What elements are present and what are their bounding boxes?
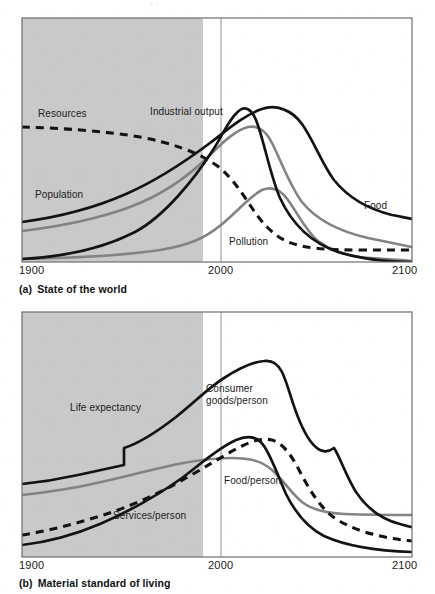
panel-state-of-the-world: Industrial output Resources Population F… — [0, 0, 435, 300]
curve-label-resources: Resources — [38, 108, 87, 120]
panel-b-plot — [0, 300, 435, 594]
x-tick-2000-b: 2000 — [208, 559, 233, 571]
caption-id-b: (b) — [19, 577, 33, 589]
curve-label-services-per-person: Services/person — [113, 510, 186, 522]
panel-material-standard-of-living: Life expectancy Consumer goods/person Fo… — [0, 300, 435, 594]
caption-id-a: (a) — [19, 283, 32, 295]
caption-panel-a: (a)State of the world — [19, 283, 127, 295]
curve-label-industrial-output: Industrial output — [150, 106, 223, 118]
x-tick-2100-a: 2100 — [392, 264, 417, 276]
caption-text-a: State of the world — [37, 283, 127, 295]
curve-label-food-per-person: Food/person — [224, 475, 281, 487]
x-tick-1900-b: 1900 — [19, 559, 44, 571]
curve-label-population: Population — [35, 189, 83, 201]
curve-label-life-expectancy: Life expectancy — [70, 402, 141, 414]
caption-text-b: Material standard of living — [38, 577, 171, 589]
x-tick-1900-a: 1900 — [19, 264, 44, 276]
curve-label-pollution: Pollution — [229, 236, 268, 248]
shaded-historical-band-a — [22, 18, 203, 262]
curve-label-consumer-goods-per-person: Consumer goods/person — [206, 383, 268, 406]
curve-label-food: Food — [364, 200, 387, 212]
panel-a-plot — [0, 0, 435, 300]
limits-to-growth-figure: · · — [0, 0, 435, 594]
caption-panel-b: (b)Material standard of living — [19, 577, 171, 589]
x-tick-2100-b: 2100 — [392, 559, 417, 571]
x-tick-2000-a: 2000 — [208, 264, 233, 276]
